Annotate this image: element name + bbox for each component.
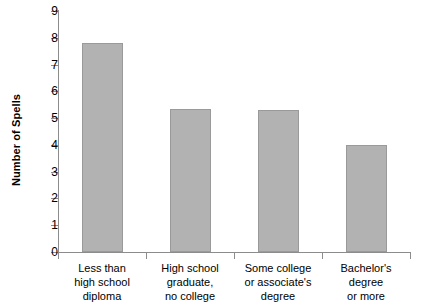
x-axis-category-label-line: diploma <box>58 289 146 303</box>
x-axis-tick <box>58 253 59 259</box>
y-axis-tick-label: 4 <box>14 139 58 151</box>
x-axis-category-label: Some collegeor associate'sdegree <box>234 261 322 303</box>
x-axis-category-label-line: no college <box>146 289 234 303</box>
y-axis-tick-label: 2 <box>14 192 58 204</box>
y-axis-tick-label: 6 <box>14 85 58 97</box>
x-axis-tick <box>146 253 147 259</box>
y-axis-tick-label: 1 <box>14 219 58 231</box>
x-axis-category-label-line: High school <box>146 261 234 275</box>
x-axis-category-label-line: graduate, <box>146 275 234 289</box>
x-axis-tick <box>322 253 323 259</box>
y-axis-tick-label: 5 <box>14 112 58 124</box>
x-axis-category-label-line: Bachelor's <box>322 261 410 275</box>
y-axis-tick-label: 0 <box>14 246 58 258</box>
y-axis-tick-label: 9 <box>14 5 58 17</box>
x-axis-category-label: Less thanhigh schooldiploma <box>58 261 146 303</box>
y-axis-tick-label: 3 <box>14 166 58 178</box>
x-axis-category-label: Bachelor'sdegreeor more <box>322 261 410 303</box>
y-axis-tick-label: 7 <box>14 59 58 71</box>
x-axis-category-label-line: degree <box>322 275 410 289</box>
x-axis-category-label-line: or more <box>322 289 410 303</box>
x-axis-category-label: High schoolgraduate,no college <box>146 261 234 303</box>
x-axis-tick <box>410 253 411 259</box>
bar <box>170 109 211 252</box>
y-axis-tick-label: 8 <box>14 32 58 44</box>
x-axis-category-label-line: Less than <box>58 261 146 275</box>
bar-chart: Number of Spells 9876543210 Less thanhig… <box>0 0 422 308</box>
bar <box>258 110 299 252</box>
y-axis-line <box>58 10 59 253</box>
bar <box>346 145 387 252</box>
x-axis-category-label-line: degree <box>234 289 322 303</box>
x-axis-category-label-line: Some college <box>234 261 322 275</box>
x-axis-category-label-line: or associate's <box>234 275 322 289</box>
x-axis-tick <box>234 253 235 259</box>
bar <box>82 43 123 252</box>
x-axis-category-label-line: high school <box>58 275 146 289</box>
